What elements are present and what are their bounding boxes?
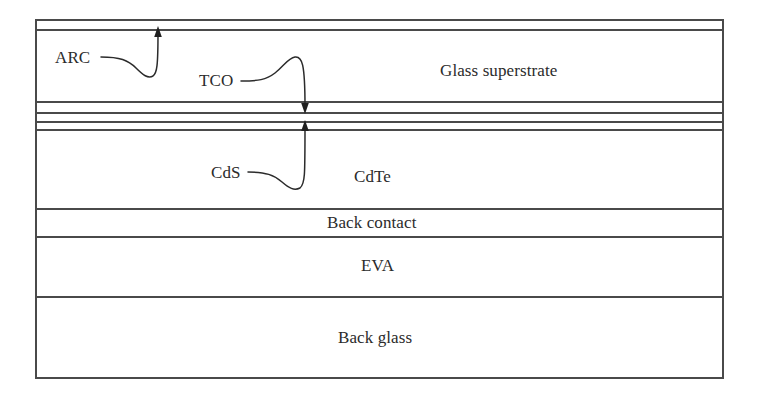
cds-leader-line <box>248 126 305 189</box>
callout-label-arc: ARC <box>55 49 90 66</box>
layer-label-back-contact: Back contact <box>327 214 416 231</box>
layer-label-glass-superstrate: Glass superstrate <box>440 62 557 79</box>
module-outer-frame <box>36 20 723 378</box>
arc-leader-line <box>101 32 158 77</box>
layer-label-cdte: CdTe <box>354 168 391 185</box>
layer-label-back-glass: Back glass <box>338 329 412 346</box>
diagram-canvas: Glass superstrate CdTe Back contact EVA … <box>0 0 757 402</box>
callout-label-cds: CdS <box>211 164 241 181</box>
arc-arrow-head <box>154 26 162 37</box>
layer-label-eva: EVA <box>361 257 394 274</box>
callout-label-tco: TCO <box>199 72 233 89</box>
tco-leader-line <box>241 57 305 107</box>
